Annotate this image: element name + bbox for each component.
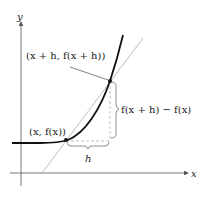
rise-label: f(x + h) − f(x) <box>121 104 191 115</box>
secant-line-diagram: y x (x + h, f(x + h)) (x, f(x)) f(x + h)… <box>0 0 207 200</box>
run-brace <box>67 142 109 149</box>
x-axis-label: x <box>191 168 197 179</box>
point-x-label: (x, f(x)) <box>29 126 66 137</box>
point-xh-label: (x + h, f(x + h)) <box>26 50 105 61</box>
point-xh-fxh <box>108 79 112 83</box>
rise-brace <box>111 82 119 138</box>
run-label: h <box>85 153 91 164</box>
y-axis-label: y <box>16 11 23 22</box>
leader-line <box>70 67 108 80</box>
point-x-fx <box>64 138 68 142</box>
